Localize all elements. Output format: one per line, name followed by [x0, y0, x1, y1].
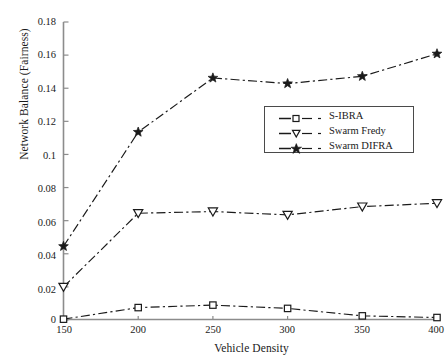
- chart-legend: S-IBRA Swarm Fredy Swarm DIFRA: [264, 106, 414, 153]
- legend-sample-square-icon: [277, 111, 327, 126]
- x-tick-label: 300: [267, 324, 307, 335]
- legend-sample-triangle-icon: [277, 126, 327, 141]
- x-tick-label: 400: [416, 324, 448, 335]
- legend-entry-swarm-fredy: Swarm Fredy: [271, 126, 411, 141]
- data-point-triangle-down: [358, 203, 367, 211]
- x-axis-title: Vehicle Density: [60, 342, 443, 354]
- data-series-layer: [59, 49, 442, 323]
- data-point-star: [357, 71, 367, 80]
- data-point-square: [359, 313, 365, 319]
- x-tick-label: 200: [118, 324, 158, 335]
- legend-label: Swarm Fredy: [329, 125, 386, 136]
- plot-canvas: [0, 0, 448, 364]
- data-point-square: [135, 304, 141, 310]
- legend-entry-swarm-difra: Swarm DIFRA: [271, 141, 411, 156]
- legend-label: Swarm DIFRA: [329, 140, 393, 151]
- x-tick-label: 150: [44, 324, 84, 335]
- data-point-square: [60, 316, 66, 322]
- data-point-square: [284, 305, 290, 311]
- series-swarm-fredy: [59, 200, 442, 292]
- data-point-star: [432, 49, 442, 58]
- x-tick-label: 350: [342, 324, 382, 335]
- legend-entry-s-ibra: S-IBRA: [271, 111, 411, 126]
- x-tick-label: 250: [193, 324, 233, 335]
- legend-sample-star-icon: [277, 141, 327, 156]
- chart-figure: Network Balance (Fairness) 0.18 0.16 0.1…: [0, 0, 448, 364]
- data-point-square: [210, 302, 216, 308]
- data-point-star: [133, 127, 143, 136]
- data-point-star: [283, 78, 293, 87]
- legend-label: S-IBRA: [329, 110, 363, 121]
- data-point-square: [434, 314, 440, 320]
